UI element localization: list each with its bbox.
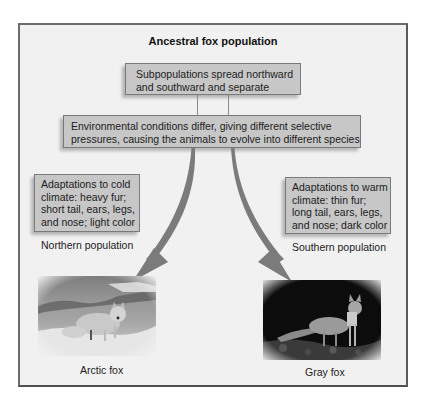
cold-adaptation-line: and nose; light color [41,216,132,229]
warm-adaptation-line: Adaptations to warm [292,181,383,194]
cold-adaptations-box: Adaptations to cold climate: heavy fur; … [34,174,140,232]
gray-fox-label: Gray fox [305,366,345,378]
warm-adaptation-line: climate: thin fur; [292,194,383,207]
warm-adaptation-line: long tail, ears, legs, [292,206,383,219]
warm-adaptations-box: Adaptations to warm climate: thin fur; l… [285,177,391,234]
arrow-north [133,148,195,281]
arctic-fox-label: Arctic fox [80,364,123,376]
cold-adaptation-line: short tail, ears, legs, [41,203,132,216]
arctic-fox-photo [38,276,156,356]
warm-adaptation-line: and nose; dark color [292,219,383,232]
cold-adaptation-line: Adaptations to cold [41,178,132,191]
southern-population-label: Southern population [292,241,386,253]
gray-fox-photo [263,280,381,360]
northern-population-label: Northern population [41,239,133,251]
cold-adaptation-line: climate: heavy fur; [41,191,132,204]
arrow-south [231,148,292,282]
